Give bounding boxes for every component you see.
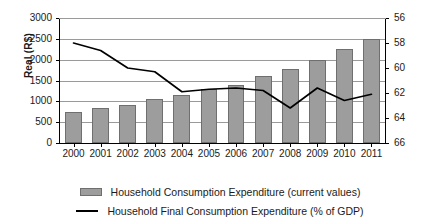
y-axis-right-tick-label: 64 — [394, 113, 428, 123]
y-axis-right-tick-label: 56 — [394, 13, 428, 23]
y-axis-left-tick-label: 2500 — [18, 34, 52, 44]
y-axis-left-tick-label: 500 — [18, 117, 52, 127]
legend-label-bars: Household Consumption Expenditure (curre… — [111, 186, 361, 198]
y-axis-left-tick-label: 0 — [18, 138, 52, 148]
y-axis-right-tick-label: 60 — [394, 63, 428, 73]
axis-line-bottom — [59, 143, 386, 144]
line-series — [60, 18, 385, 143]
axis-line-top — [59, 18, 386, 19]
chart-container: Real (R$) 050010001500200025003000 56586… — [0, 0, 440, 224]
y-axis-right-tick-label: 62 — [394, 88, 428, 98]
legend-swatch-icon — [80, 188, 102, 196]
y-axis-right-tick-label: 66 — [394, 138, 428, 148]
axis-line-left — [59, 18, 60, 144]
line-path — [74, 43, 372, 108]
y-axis-right-tick-label: 58 — [394, 38, 428, 48]
legend-item-bars: Household Consumption Expenditure (curre… — [0, 182, 440, 201]
y-axis-left-tick-label: 1500 — [18, 76, 52, 86]
legend-label-line: Household Final Consumption Expenditure … — [107, 205, 363, 217]
legend-item-line: Household Final Consumption Expenditure … — [0, 201, 440, 220]
chart-legend: Household Consumption Expenditure (curre… — [0, 182, 440, 220]
plot-area — [60, 18, 385, 143]
y-axis-left-tick-label: 2000 — [18, 55, 52, 65]
y-axis-left-tick-label: 1000 — [18, 96, 52, 106]
legend-line-icon — [76, 210, 98, 212]
y-axis-left-tick-label: 3000 — [18, 13, 52, 23]
x-axis-tick-label: 2011 — [354, 149, 388, 159]
axis-line-right — [385, 18, 386, 144]
